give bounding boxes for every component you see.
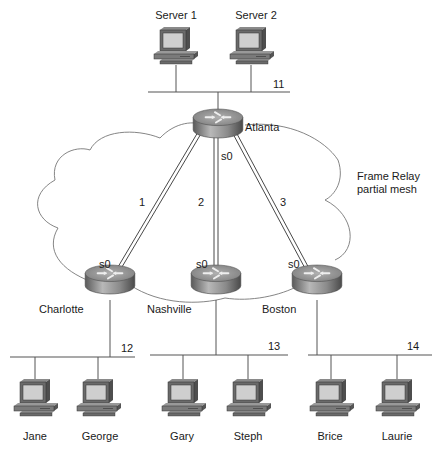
router-atlanta-label: Atlanta: [245, 121, 279, 133]
host-laurie-label: Laurie: [382, 430, 413, 442]
server-1-icon: [154, 27, 198, 64]
server-2-label: Server 2: [235, 9, 277, 21]
charlotte-interface-label: s0: [99, 258, 111, 270]
host-brice-icon: [310, 379, 354, 416]
subnet-11-label: 11: [273, 78, 284, 90]
host-laurie-icon: [376, 379, 420, 416]
host-steph-label: Steph: [234, 430, 263, 442]
cloud-label-line2: partial mesh: [357, 183, 417, 195]
router-atlanta-icon: [193, 109, 243, 138]
pvc-1: [115, 132, 202, 272]
host-steph-icon: [227, 379, 271, 416]
host-jane-icon: [14, 379, 58, 416]
pvc-3: [232, 132, 311, 272]
host-brice-label: Brice: [317, 430, 342, 442]
router-nashville-label: Nashville: [147, 303, 192, 315]
cloud-label-line1: Frame Relay: [357, 170, 420, 182]
pvc-1-label: 1: [139, 196, 145, 208]
host-gary-icon: [162, 379, 206, 416]
router-boston-label: Boston: [262, 303, 296, 315]
nashville-interface-label: s0: [196, 258, 208, 270]
host-george-label: George: [82, 430, 119, 442]
network-diagram: [0, 0, 438, 452]
server-2-icon: [230, 27, 274, 64]
host-george-icon: [77, 379, 121, 416]
host-jane-label: Jane: [23, 430, 47, 442]
subnet-14-label: 14: [407, 340, 419, 352]
server-1-label: Server 1: [155, 9, 197, 21]
atlanta-interface-label: s0: [221, 150, 233, 162]
subnet-12-label: 12: [121, 342, 133, 354]
boston-interface-label: s0: [288, 258, 300, 270]
pvc-2-label: 2: [198, 196, 204, 208]
pvc-2: [214, 134, 218, 270]
router-boston-icon: [292, 265, 342, 294]
subnet-13-label: 13: [268, 340, 280, 352]
pvc-3-label: 3: [280, 196, 286, 208]
host-gary-label: Gary: [170, 430, 194, 442]
router-charlotte-label: Charlotte: [39, 303, 84, 315]
